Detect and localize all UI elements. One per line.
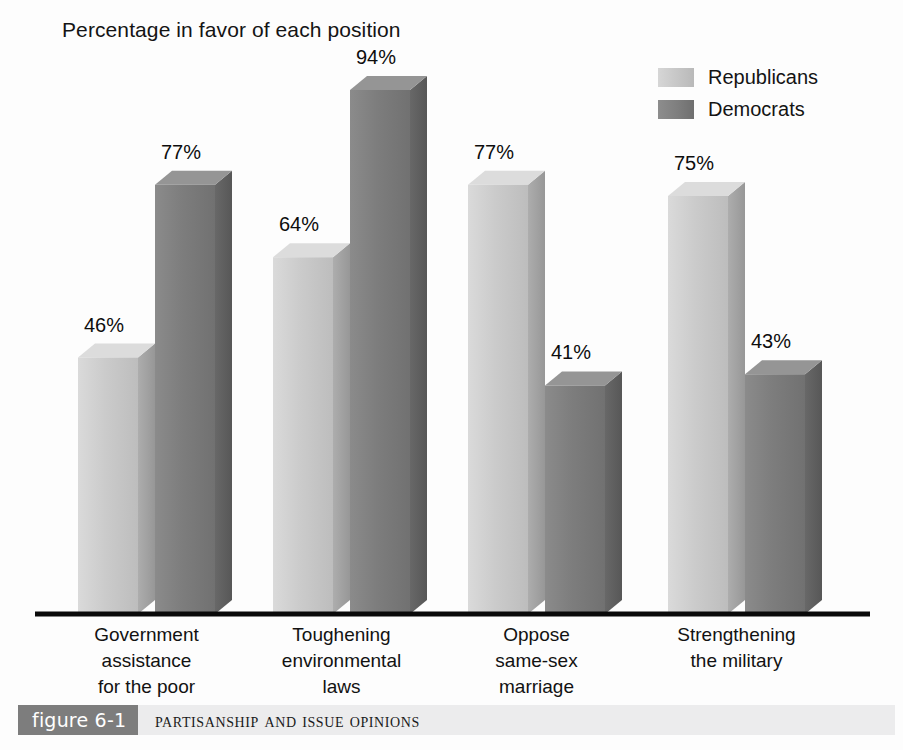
value-label-republicans-1: 46%: [84, 314, 124, 336]
bar-side-face: [215, 171, 232, 614]
bar-side-face: [138, 344, 155, 614]
figure-container: Percentage in favor of each position Rep…: [0, 0, 903, 750]
bar-side-face: [805, 360, 822, 614]
category-label-2: Toughening environmental laws: [282, 622, 401, 700]
bar-front-face: [78, 358, 138, 614]
category-label-4: Strengthening the military: [677, 622, 795, 674]
figure-caption: figure 6-1 Partisanship and Issue Opinio…: [18, 705, 895, 735]
bar-side-face: [528, 171, 545, 614]
bars-svg: [0, 0, 903, 625]
bar-democrats-1: [155, 171, 232, 614]
value-label-democrats-4: 43%: [751, 330, 791, 352]
bar-front-face: [273, 257, 333, 614]
value-label-democrats-2: 94%: [356, 46, 396, 68]
bar-side-face: [410, 76, 427, 614]
bar-front-face: [545, 385, 605, 614]
bar-democrats-4: [745, 360, 822, 614]
category-label-1: Government assistance for the poor: [94, 622, 199, 700]
bar-side-face: [605, 371, 622, 614]
bar-republicans-2: [273, 243, 350, 614]
value-label-democrats-3: 41%: [551, 341, 591, 363]
bar-front-face: [350, 90, 410, 614]
value-label-republicans-4: 75%: [674, 152, 714, 174]
bar-democrats-3: [545, 371, 622, 614]
value-label-democrats-1: 77%: [161, 141, 201, 163]
category-label-3: Oppose same-sex marriage: [495, 622, 577, 700]
bar-side-face: [728, 182, 745, 614]
bar-side-face: [333, 243, 350, 614]
plot-area: 46%77%64%94%77%41%75%43%: [0, 0, 903, 625]
bar-front-face: [668, 196, 728, 614]
value-label-republicans-2: 64%: [279, 213, 319, 235]
figure-caption-text: Partisanship and Issue Opinions: [138, 705, 895, 735]
bar-republicans-4: [668, 182, 745, 614]
bar-front-face: [745, 374, 805, 614]
bar-republicans-1: [78, 344, 155, 614]
bar-front-face: [155, 185, 215, 614]
bar-republicans-3: [468, 171, 545, 614]
bar-democrats-2: [350, 76, 427, 614]
figure-number: figure 6-1: [18, 705, 138, 735]
bar-front-face: [468, 185, 528, 614]
value-label-republicans-3: 77%: [474, 141, 514, 163]
